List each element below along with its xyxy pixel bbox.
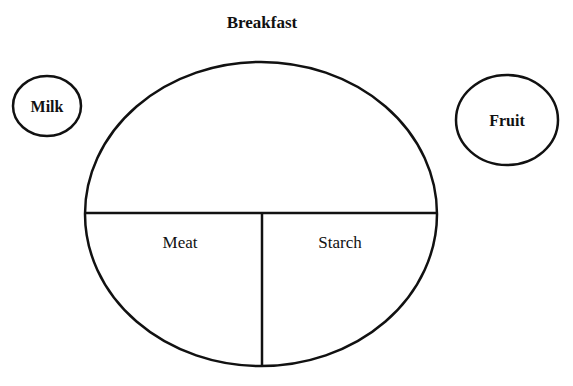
milk-label: Milk: [31, 98, 64, 115]
breakfast-plate-diagram: Breakfast Meat Starch Milk Fruit: [0, 0, 573, 386]
side-item-fruit: Fruit: [456, 75, 558, 165]
fruit-label: Fruit: [489, 112, 525, 129]
diagram-title: Breakfast: [227, 13, 298, 32]
plate: Meat Starch: [85, 62, 437, 366]
side-item-milk: Milk: [13, 76, 81, 136]
section-starch: Starch: [318, 233, 362, 252]
section-meat: Meat: [163, 233, 198, 252]
